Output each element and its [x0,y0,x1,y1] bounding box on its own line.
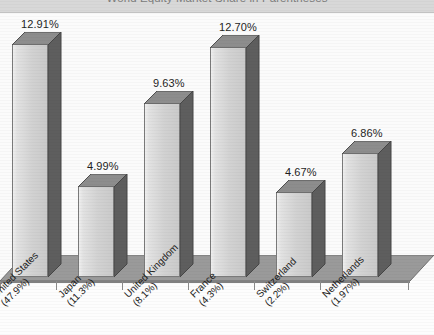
bar-side-face [312,180,325,277]
bar-side-face [180,91,193,277]
chart-container: World Equity Market Share in Parentheses… [0,0,434,335]
bar-netherlands[interactable]: 6.86% [342,141,391,277]
bar-united-states[interactable]: 12.91% [12,32,61,277]
axis-tick [320,281,321,290]
bar-value-label: 6.86% [351,127,383,139]
bar-side-face [114,174,127,277]
bar-side-face [246,35,259,277]
axis-tick [408,281,409,290]
bar-value-label: 4.67% [285,166,317,178]
bar-front-face [210,48,246,277]
bar-front-face [78,187,114,277]
bar-front-face [12,45,48,277]
bar-france[interactable]: 12.70% [210,35,259,277]
bar-value-label: 4.99% [87,160,119,172]
bar-value-label: 12.70% [219,21,257,33]
bar-side-face [48,32,61,277]
bar-side-face [378,141,391,277]
bar-value-label: 9.63% [153,77,185,89]
bar-japan[interactable]: 4.99% [78,174,127,277]
axis-tick [188,281,189,290]
axis-tick [254,281,255,290]
axis-tick [56,281,57,290]
bar-value-label: 12.91% [21,18,59,30]
axis-tick [122,281,123,290]
